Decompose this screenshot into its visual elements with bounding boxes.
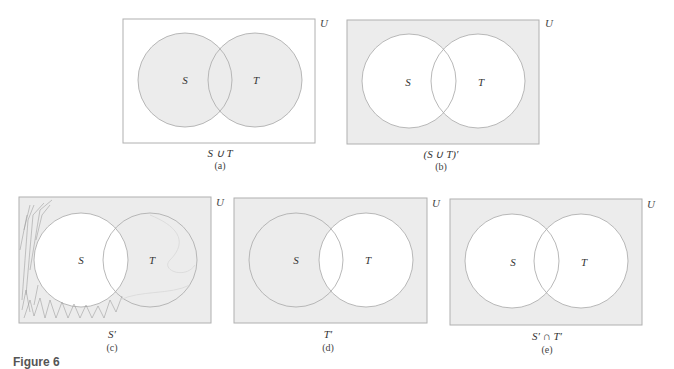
panel-c-sublabel: (c) (106, 342, 117, 353)
panel-e-universe-label: U (647, 198, 655, 210)
venn-panel-a (123, 19, 315, 143)
panel-d-caption: T′ (324, 328, 333, 340)
panel-b-sublabel: (b) (435, 161, 447, 172)
venn-panel-c (19, 197, 211, 323)
panel-d-sublabel: (d) (322, 342, 334, 353)
panel-a-sublabel: (a) (214, 160, 225, 171)
panel-b-set-label-s: S (405, 76, 411, 88)
panel-a-set-label-s: S (182, 74, 188, 86)
venn-panel-b (347, 20, 539, 144)
panel-c-caption: S′ (108, 328, 116, 340)
panel-b-caption: (S ∪ T)′ (424, 148, 459, 161)
panel-d-set-label-t: T (365, 254, 371, 266)
panel-a-set-label-t: T (253, 74, 259, 86)
panel-c-set-label-t: T (149, 254, 155, 266)
panel-e-set-label-t: T (581, 256, 587, 268)
venn-panel-d (234, 198, 427, 323)
panel-e-caption: S′ ∩ T′ (532, 330, 562, 342)
panel-e-set-label-s: S (510, 256, 516, 268)
panel-d-set-label-s: S (293, 254, 299, 266)
panel-a-caption: S ∪ T (207, 147, 232, 160)
figure-number-label: Figure 6 (13, 355, 60, 369)
panel-c-set-label-s: S (78, 254, 84, 266)
panel-b-set-label-t: T (478, 76, 484, 88)
panel-a-universe-label: U (320, 17, 328, 29)
panel-d-universe-label: U (432, 197, 440, 209)
panel-b-universe-label: U (545, 17, 553, 29)
panel-e-sublabel: (e) (541, 344, 552, 355)
venn-panel-e (450, 199, 642, 325)
panel-c-universe-label: U (216, 196, 224, 208)
